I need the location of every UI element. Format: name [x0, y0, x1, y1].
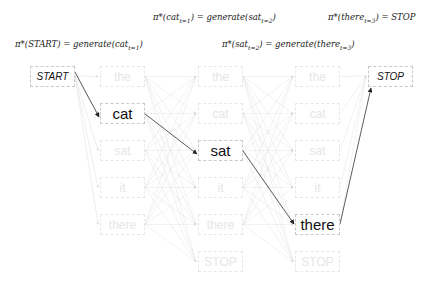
token-node-it-step-1: it	[100, 177, 145, 198]
token-node-cat-step-1: cat	[100, 103, 145, 124]
faded-edge	[75, 76, 98, 77]
token-node-the-step-1: the	[100, 66, 145, 87]
token-label: there	[207, 218, 234, 232]
edge-cat-to-sat	[145, 114, 197, 154]
start-label: START	[37, 71, 69, 82]
token-label: it	[218, 181, 224, 195]
token-label: there	[109, 218, 136, 232]
token-label: cat	[112, 105, 132, 122]
token-label: cat	[212, 107, 228, 121]
token-node-sat-step-2: sat	[198, 140, 243, 161]
faded-edge	[145, 225, 196, 262]
faded-edge	[340, 76, 366, 114]
token-label: it	[120, 181, 126, 195]
faded-edge	[340, 76, 366, 225]
token-node-there-step-3: there	[295, 214, 340, 235]
edge-there-to-stop	[340, 88, 371, 224]
token-node-it-step-3: it	[295, 177, 340, 198]
stop-label: STOP	[377, 71, 404, 82]
faded-edge	[340, 76, 366, 151]
token-node-cat-step-3: cat	[295, 103, 340, 124]
token-node-the-step-3: the	[295, 66, 340, 87]
token-node-it-step-2: it	[198, 177, 243, 198]
token-node-cat-step-2: cat	[198, 103, 243, 124]
token-node-there-step-2: there	[198, 214, 243, 235]
faded-edge	[75, 76, 98, 225]
token-label: sat	[114, 144, 130, 158]
token-label: there	[300, 216, 334, 233]
token-node-stop-step-3: STOP	[295, 251, 340, 272]
token-label: sat	[309, 144, 325, 158]
faded-edge	[243, 225, 293, 262]
token-node-sat-step-3: sat	[295, 140, 340, 161]
token-node-the-step-2: the	[198, 66, 243, 87]
token-label: STOP	[204, 255, 236, 269]
token-label: it	[315, 181, 321, 195]
token-label: the	[309, 70, 326, 84]
faded-edge	[340, 76, 366, 77]
token-label: STOP	[301, 255, 333, 269]
token-node-stop-step-2: STOP	[198, 251, 243, 272]
token-node-there-step-1: there	[100, 214, 145, 235]
token-node-sat-step-1: sat	[100, 140, 145, 161]
token-label: cat	[309, 107, 325, 121]
faded-edge	[340, 76, 366, 188]
token-label: the	[212, 70, 229, 84]
token-label: the	[114, 70, 131, 84]
stop-node: STOP	[368, 66, 413, 87]
faded-edge	[75, 76, 98, 151]
start-node: START	[30, 66, 75, 87]
token-label: sat	[210, 142, 230, 159]
